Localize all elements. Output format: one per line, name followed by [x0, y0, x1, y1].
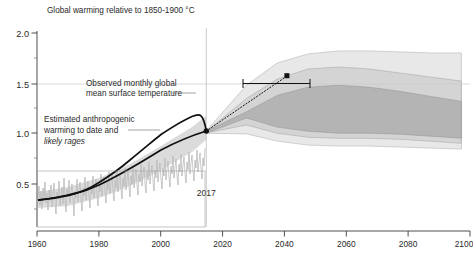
x-tick-label-2080: 2080	[399, 239, 418, 249]
x-tick-label-2060: 2060	[337, 239, 356, 249]
observed-monthly-annotation-line-2: mean surface temperature	[86, 89, 182, 98]
y-tick-label-0p5: 0.5	[16, 180, 29, 190]
x-tick-label-1980: 1980	[90, 239, 109, 249]
x-axis: 1960 1980 2000 2020 2040 2060 2080 2100	[28, 231, 473, 249]
estimated-warming-annotation-line-1: Estimated anthropogenic	[44, 115, 135, 124]
y-tick-label-1p5: 1.5	[16, 80, 29, 90]
y-tick-label-1p0: 1.0	[16, 129, 29, 139]
year-2017-label: 2017	[197, 188, 216, 198]
y-axis: 2.0 1.5 1.0 0.5	[16, 29, 37, 228]
climate-projection-chart: Global warming relative to 1850-1900 °C	[0, 0, 473, 264]
estimated-warming-annotation-line-2: warming to date and	[43, 126, 119, 135]
projected-1p5-point	[284, 73, 289, 78]
estimated-warming-annotation-line-3: likely rages	[44, 137, 85, 146]
x-tick-label-2000: 2000	[151, 239, 170, 249]
x-tick-label-2040: 2040	[275, 239, 294, 249]
observed-2017-point	[204, 128, 209, 133]
y-tick-label-2p0: 2.0	[16, 29, 29, 39]
chart-title: Global warming relative to 1850-1900 °C	[47, 6, 195, 15]
chart-svg: Global warming relative to 1850-1900 °C	[0, 0, 473, 264]
observed-monthly-annotation-line-1: Observed monthly global	[86, 79, 177, 88]
x-tick-label-2020: 2020	[213, 239, 232, 249]
x-tick-label-1960: 1960	[28, 239, 47, 249]
x-tick-label-2100: 2100	[455, 239, 473, 249]
